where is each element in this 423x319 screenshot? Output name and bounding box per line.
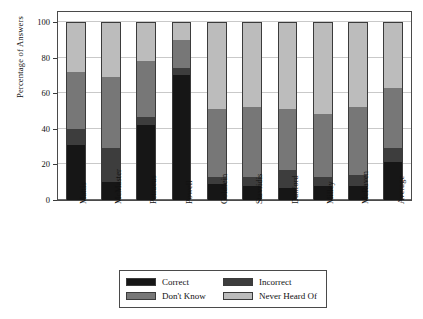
legend-row: Don't Know Never Heard Of xyxy=(126,289,320,303)
x-axis-label: Milley xyxy=(326,181,335,204)
bar-segment xyxy=(136,22,156,61)
bar-segment xyxy=(313,22,333,114)
bar-group xyxy=(383,22,403,200)
bar-segment xyxy=(66,129,86,145)
legend-item-correct: Correct xyxy=(126,277,223,287)
y-tick-mark xyxy=(53,129,57,130)
bar-segment xyxy=(278,22,298,109)
bar-segment xyxy=(278,109,298,170)
x-axis-label: Dunford xyxy=(291,175,300,204)
x-axis-label: Petraeus xyxy=(149,175,158,204)
stacked-bar[interactable] xyxy=(172,22,192,200)
y-tick-mark xyxy=(53,58,57,59)
legend-label-dont-know: Don't Know xyxy=(162,291,206,301)
chart-legend: Correct Incorrect Don't Know Never Heard… xyxy=(119,270,327,308)
legend-item-never-heard-of: Never Heard Of xyxy=(223,291,320,301)
bar-segment xyxy=(172,40,192,68)
y-tick-mark xyxy=(53,93,57,94)
x-axis-label: Goldfein xyxy=(220,174,229,204)
stacked-bar[interactable] xyxy=(313,22,333,200)
y-tick-label: 60 xyxy=(42,88,51,98)
legend-swatch-correct xyxy=(126,278,156,286)
bar-segment xyxy=(207,109,227,177)
bar-segment xyxy=(383,88,403,149)
y-axis-title: Percentage of Answers xyxy=(15,0,25,127)
bar-segment xyxy=(101,22,121,77)
stacked-bar-chart-figure: Percentage of Answers 020406080100 Matti… xyxy=(0,0,423,319)
bar-group xyxy=(313,22,333,200)
bar-group xyxy=(172,22,192,200)
bar-group xyxy=(66,22,86,200)
plot-area: 020406080100 xyxy=(58,22,411,200)
x-axis-label: Stavridis xyxy=(255,174,264,204)
stacked-bar[interactable] xyxy=(66,22,86,200)
bar-group xyxy=(278,22,298,200)
y-tick-label: 0 xyxy=(46,195,50,205)
y-tick-label: 20 xyxy=(42,159,51,169)
bar-segment xyxy=(101,77,121,147)
y-tick-mark xyxy=(53,200,57,201)
x-axis-label: Powell xyxy=(185,180,194,204)
legend-swatch-dont-know xyxy=(126,292,156,300)
legend-label-correct: Correct xyxy=(162,277,189,287)
legend-item-dont-know: Don't Know xyxy=(126,291,223,301)
legend-item-incorrect: Incorrect xyxy=(223,277,320,287)
bar-segment xyxy=(348,107,368,176)
x-axis-label: McMaster xyxy=(114,169,123,204)
x-axis-label: McRaven xyxy=(361,171,370,204)
x-axis-label: Average xyxy=(397,176,406,204)
stacked-bar[interactable] xyxy=(136,22,156,200)
legend-label-never-heard-of: Never Heard Of xyxy=(259,291,317,301)
legend-row: Correct Incorrect xyxy=(126,275,320,289)
bar-segment xyxy=(242,107,262,177)
bar-segment xyxy=(348,22,368,107)
bar-segment xyxy=(172,68,192,74)
bar-segment xyxy=(207,22,227,109)
y-tick-label: 100 xyxy=(37,17,50,27)
bar-segment xyxy=(136,117,156,125)
bar-segment xyxy=(383,22,403,88)
y-tick-mark xyxy=(53,22,57,23)
bar-segment xyxy=(66,22,86,72)
bar-segment xyxy=(172,22,192,40)
bar-segment xyxy=(66,72,86,129)
stacked-bar[interactable] xyxy=(383,22,403,200)
bar-group xyxy=(136,22,156,200)
y-tick-label: 80 xyxy=(42,53,51,63)
stacked-bar[interactable] xyxy=(278,22,298,200)
x-axis-label: Mattis xyxy=(79,182,88,204)
bar-segment xyxy=(383,148,403,161)
y-tick-mark xyxy=(53,164,57,165)
legend-swatch-incorrect xyxy=(223,278,253,286)
y-tick-label: 40 xyxy=(42,124,51,134)
bar-segment xyxy=(313,114,333,177)
bar-segment xyxy=(136,61,156,117)
legend-swatch-never-heard-of xyxy=(223,292,253,300)
legend-label-incorrect: Incorrect xyxy=(259,277,291,287)
bar-segment xyxy=(242,22,262,107)
